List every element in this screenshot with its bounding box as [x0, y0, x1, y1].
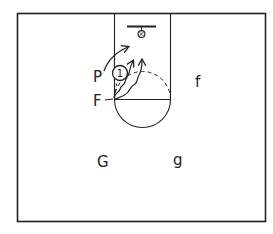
free-throw-circle-bottom	[115, 100, 171, 128]
basket-net	[140, 32, 144, 36]
court-diagram: 1 P F f G g	[0, 0, 273, 234]
player-F: F	[93, 92, 102, 110]
f-screen-tick	[105, 99, 113, 100]
player-f: f	[195, 73, 201, 91]
defender-label: 1	[117, 68, 123, 79]
court-boundary	[18, 14, 266, 222]
player-G: G	[97, 153, 109, 171]
player-P: P	[93, 68, 102, 86]
player-g: g	[173, 151, 183, 169]
